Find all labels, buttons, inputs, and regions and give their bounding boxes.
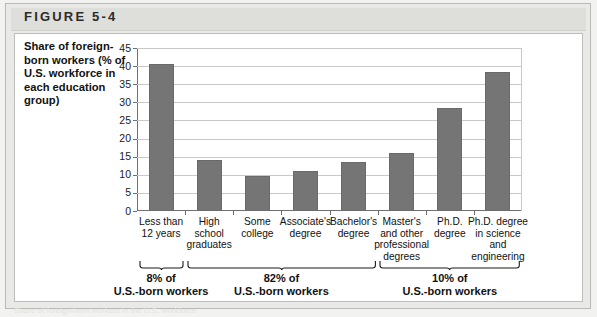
y-axis-tick-mark	[133, 139, 137, 140]
plot-area	[137, 48, 522, 211]
y-axis-tick-mark	[133, 48, 137, 49]
group-percent: 10% of	[355, 272, 545, 285]
group-annotation: 82% ofU.S.-born workers	[186, 272, 376, 298]
bar	[341, 162, 366, 211]
y-axis-tick-label: 35	[101, 78, 131, 90]
bar	[149, 64, 174, 211]
y-axis-tick-label: 45	[101, 42, 131, 54]
y-axis-tick-mark	[133, 193, 137, 194]
gridline	[137, 66, 522, 67]
gridline	[137, 139, 522, 140]
y-axis-tick-mark	[133, 175, 137, 176]
y-axis-tick-label: 40	[101, 60, 131, 72]
group-brace	[139, 261, 184, 270]
category-label-line: professional	[371, 239, 433, 251]
x-axis-tick-mark	[330, 211, 331, 215]
plot-right-border	[521, 48, 522, 211]
y-axis-tick-label: 5	[101, 186, 131, 198]
gridline	[137, 120, 522, 121]
y-axis-tick-label: 30	[101, 96, 131, 108]
group-subtitle: U.S.-born workers	[355, 285, 545, 298]
gridline	[137, 193, 522, 194]
category-label-line: and	[467, 239, 529, 251]
y-axis-tick-mark	[133, 66, 137, 67]
category-label-line: graduates	[178, 239, 240, 251]
group-brace	[187, 261, 376, 270]
gridline	[137, 84, 522, 85]
category-label-line: in science	[467, 228, 529, 240]
group-annotation: 10% ofU.S.-born workers	[355, 272, 545, 298]
y-axis-tick-mark	[133, 157, 137, 158]
bar	[485, 72, 510, 212]
group-subtitle: U.S.-born workers	[186, 285, 376, 298]
group-brace	[379, 261, 520, 270]
x-axis-tick-mark	[378, 211, 379, 215]
y-axis-tick-label: 15	[101, 150, 131, 162]
gridline	[137, 157, 522, 158]
y-axis-tick-label: 0	[101, 205, 131, 217]
plot-background	[137, 48, 522, 211]
figure-number-label: FIGURE 5-4	[24, 9, 118, 24]
figure-footnote: Share of foreign-born workers in the U.S…	[14, 306, 574, 315]
gridline	[137, 48, 522, 49]
bar	[197, 160, 222, 211]
bar	[389, 153, 414, 211]
y-axis-tick-mark	[133, 102, 137, 103]
x-axis-category-label: Ph.D. degreein scienceandengineering	[467, 216, 529, 262]
x-axis-tick-mark	[233, 211, 234, 215]
category-label-line: Ph.D. degree	[467, 216, 529, 228]
x-axis-tick-mark	[474, 211, 475, 215]
bar	[437, 108, 462, 211]
y-axis-tick-mark	[133, 211, 137, 212]
x-axis-tick-mark	[426, 211, 427, 215]
bar	[245, 176, 270, 211]
figure-container: FIGURE 5-4 Share of foreign-born workers…	[0, 0, 597, 317]
y-axis-tick-label: 25	[101, 114, 131, 126]
y-axis-tick-mark	[133, 120, 137, 121]
y-axis-tick-mark	[133, 84, 137, 85]
x-axis-tick-mark	[185, 211, 186, 215]
y-axis-tick-label: 20	[101, 132, 131, 144]
bar	[293, 171, 318, 211]
gridline	[137, 102, 522, 103]
gridline	[137, 175, 522, 176]
group-percent: 82% of	[186, 272, 376, 285]
x-axis-tick-mark	[281, 211, 282, 215]
y-axis-tick-label: 10	[101, 168, 131, 180]
